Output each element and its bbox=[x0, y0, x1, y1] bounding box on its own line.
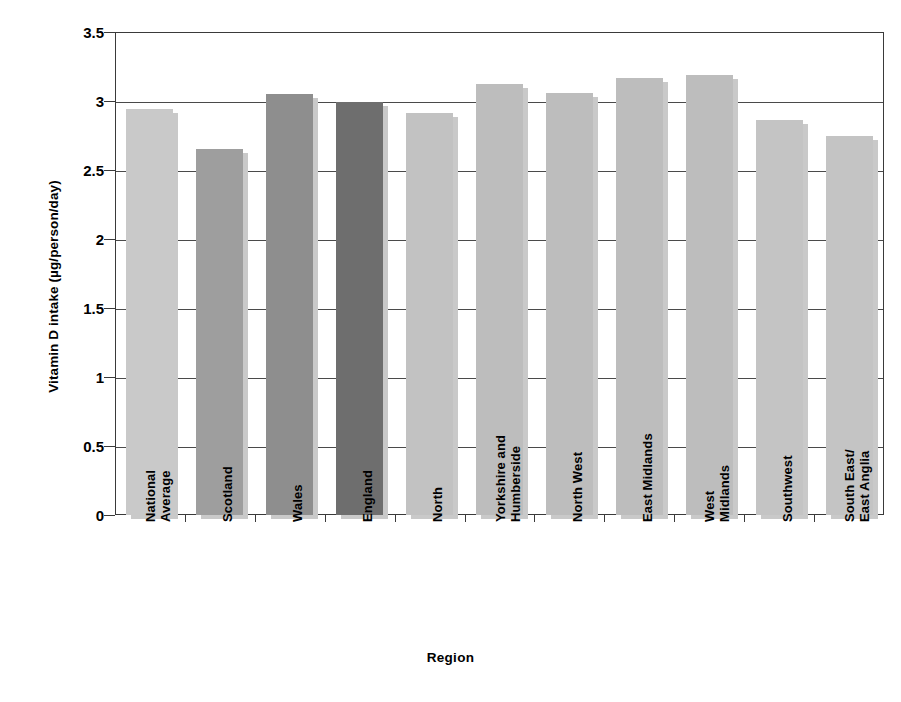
x-axis-tick-mark bbox=[185, 515, 186, 522]
bar-rect bbox=[336, 102, 383, 515]
bar-rect bbox=[686, 75, 733, 515]
x-axis-category-label: England bbox=[360, 470, 375, 522]
x-axis-category-label: South East/East Anglia bbox=[842, 449, 872, 522]
y-axis-tick-label: 0 bbox=[42, 507, 104, 524]
x-axis-label-line: Scotland bbox=[220, 466, 235, 522]
bar bbox=[546, 32, 593, 515]
y-axis-tick-label: 2.5 bbox=[42, 162, 104, 179]
bar-rect bbox=[266, 94, 313, 515]
bar bbox=[826, 32, 873, 515]
y-axis-tick-label: 3 bbox=[42, 93, 104, 110]
x-axis-label-line: North West bbox=[570, 452, 585, 522]
bar-rect bbox=[406, 113, 453, 515]
x-axis-tick-mark bbox=[465, 515, 466, 522]
bar bbox=[686, 32, 733, 515]
bar bbox=[196, 32, 243, 515]
x-axis-category-label: NationalAverage bbox=[143, 470, 173, 522]
x-axis-tick-mark bbox=[325, 515, 326, 522]
x-axis-title: Region bbox=[0, 650, 901, 665]
x-axis-label-line: East Midlands bbox=[640, 433, 655, 522]
y-axis-tick-mark bbox=[104, 446, 115, 447]
x-axis-tick-mark bbox=[395, 515, 396, 522]
x-axis-label-line: Average bbox=[158, 470, 173, 522]
y-axis-tick-label: 1.5 bbox=[42, 300, 104, 317]
x-axis-tick-mark bbox=[674, 515, 675, 522]
x-axis-label-line: Yorkshire and bbox=[493, 435, 508, 522]
y-axis-tick-mark bbox=[104, 32, 115, 33]
x-axis-label-line: England bbox=[360, 470, 375, 522]
x-axis-label-line: West bbox=[702, 491, 717, 522]
y-axis-tick-label: 2 bbox=[42, 231, 104, 248]
y-axis-tick-label: 1 bbox=[42, 369, 104, 386]
x-axis-category-label: Southwest bbox=[780, 455, 795, 522]
bar-rect bbox=[126, 109, 173, 515]
x-axis-category-labels: NationalAverageScotlandWalesEnglandNorth… bbox=[115, 522, 884, 642]
x-axis-label-line: Southwest bbox=[780, 455, 795, 522]
bar bbox=[266, 32, 313, 515]
x-axis-label-line: Humberside bbox=[508, 435, 523, 522]
x-axis-tick-mark bbox=[604, 515, 605, 522]
x-axis-tick-mark bbox=[255, 515, 256, 522]
x-axis-label-line: Midlands bbox=[717, 465, 732, 522]
y-axis-tick-label: 0.5 bbox=[42, 438, 104, 455]
y-axis-tick-label: 3.5 bbox=[42, 24, 104, 41]
y-axis-tick-mark bbox=[104, 101, 115, 102]
x-axis-tick-mark bbox=[744, 515, 745, 522]
y-axis-tick-mark bbox=[104, 239, 115, 240]
x-axis-label-line: South East/ bbox=[842, 449, 857, 522]
bar bbox=[126, 32, 173, 515]
x-axis-category-label: Wales bbox=[290, 484, 305, 522]
x-axis-category-label: Yorkshire andHumberside bbox=[493, 435, 523, 522]
x-axis-category-label: North West bbox=[570, 452, 585, 522]
x-axis-label-line: Wales bbox=[290, 484, 305, 522]
x-axis-category-label: North bbox=[430, 487, 445, 522]
x-axis-tick-mark bbox=[814, 515, 815, 522]
bar bbox=[406, 32, 453, 515]
vitamin-d-intake-bar-chart: Vitamin D intake (µg/person/day) 00.511.… bbox=[0, 0, 901, 702]
bar bbox=[756, 32, 803, 515]
y-axis-tick-mark bbox=[104, 515, 115, 516]
x-axis-label-line: North bbox=[430, 487, 445, 522]
x-axis-label-line: East Anglia bbox=[857, 449, 872, 522]
x-axis-tick-mark bbox=[534, 515, 535, 522]
x-axis-category-label: Scotland bbox=[220, 466, 235, 522]
x-axis-category-label: WestMidlands bbox=[702, 465, 732, 522]
y-axis-tick-mark bbox=[104, 308, 115, 309]
x-axis-label-line: National bbox=[143, 470, 158, 522]
y-axis-tick-mark bbox=[104, 377, 115, 378]
y-axis-tick-mark bbox=[104, 170, 115, 171]
bar bbox=[336, 32, 383, 515]
y-axis-tick-labels: 00.511.522.533.5 bbox=[0, 0, 104, 702]
bar-rect bbox=[196, 149, 243, 515]
x-axis-category-label: East Midlands bbox=[640, 433, 655, 522]
